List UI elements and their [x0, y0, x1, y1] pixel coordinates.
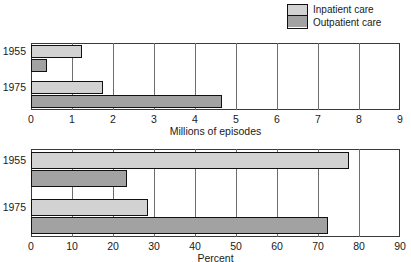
bars-top: 19551975 — [31, 43, 400, 110]
bar-1975-inpatient — [31, 81, 103, 94]
xtick-label: 0 — [28, 240, 34, 252]
xtick-label: 8 — [356, 113, 362, 125]
bar-1975-outpatient — [31, 217, 328, 234]
xtick-label: 10 — [66, 240, 78, 252]
xtick-label: 60 — [271, 240, 283, 252]
xtick-label: 80 — [353, 240, 365, 252]
legend-label-outpatient: Outpatient care — [313, 16, 381, 29]
bar-1955-inpatient — [31, 152, 349, 169]
bar-1975-outpatient — [31, 95, 222, 108]
xtick-label: 20 — [107, 240, 119, 252]
xtick-label: 2 — [110, 113, 116, 125]
xtick-label: 70 — [312, 240, 324, 252]
bars-bottom: 19551975 — [31, 149, 400, 237]
xtick-label: 5 — [233, 113, 239, 125]
xaxis-title-top: Millions of episodes — [31, 125, 400, 137]
xtick-label: 30 — [148, 240, 160, 252]
legend-label-inpatient: Inpatient care — [313, 3, 381, 16]
ylabel-1975: 1975 — [3, 81, 26, 93]
ylabel-1955: 1955 — [3, 45, 26, 57]
xtick-label: 3 — [151, 113, 157, 125]
chart-percent: 19551975 0102030405060708090 Percent — [31, 149, 400, 237]
xtick-label: 0 — [28, 113, 34, 125]
chart-legend: Inpatient care Outpatient care — [287, 3, 407, 31]
xtick-label: 7 — [315, 113, 321, 125]
bar-1955-outpatient — [31, 170, 127, 187]
legend-label-group: Inpatient care Outpatient care — [313, 3, 381, 29]
xticks-bottom: 0102030405060708090 — [31, 237, 400, 253]
xtick-label: 4 — [192, 113, 198, 125]
ylabel-1955: 1955 — [3, 154, 26, 166]
xtick-label: 40 — [189, 240, 201, 252]
xtick-label: 90 — [394, 240, 406, 252]
xticks-top: 0123456789 — [31, 110, 400, 126]
xtick-label: 9 — [397, 113, 403, 125]
legend-swatch-inpatient — [288, 5, 307, 16]
ylabel-1975: 1975 — [3, 201, 26, 213]
legend-swatch-group — [287, 4, 308, 29]
xtick-label: 50 — [230, 240, 242, 252]
bar-1955-outpatient — [31, 59, 47, 72]
bar-1975-inpatient — [31, 199, 148, 216]
chart-millions-of-episodes: 19551975 0123456789 Millions of episodes — [31, 43, 400, 110]
xaxis-title-bottom: Percent — [31, 252, 400, 262]
bar-1955-inpatient — [31, 45, 82, 58]
xtick-label: 1 — [69, 113, 75, 125]
legend-swatch-outpatient — [288, 16, 307, 27]
xtick-label: 6 — [274, 113, 280, 125]
